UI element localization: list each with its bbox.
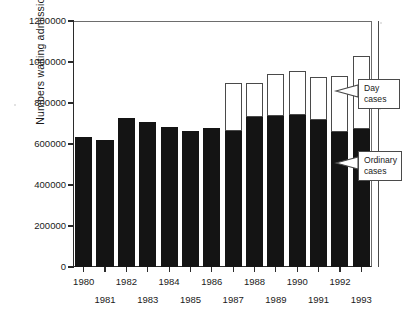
callout-day-line1: Day — [364, 83, 395, 94]
bar-ordinary-cases — [118, 118, 135, 267]
bar-day-cases — [310, 77, 327, 120]
bar-ordinary-cases — [139, 122, 156, 267]
x-tick-mark — [254, 267, 255, 272]
x-tick-label: 1985 — [170, 294, 210, 305]
x-tick-mark — [169, 267, 170, 272]
x-tick-mark — [190, 267, 191, 272]
bar-ordinary-cases — [289, 115, 306, 267]
bar-ordinary-cases — [161, 127, 178, 267]
bar-ordinary-cases — [182, 131, 199, 267]
callout-ordinary-arrow-icon — [336, 156, 360, 170]
x-tick-mark — [211, 267, 212, 272]
x-tick-mark — [361, 267, 362, 272]
y-tick-label: 200000 — [2, 220, 66, 231]
y-tick-label: 400000 — [2, 179, 66, 190]
x-tick-label: 1984 — [149, 276, 189, 287]
callout-ordinary-line1: Ordinary — [364, 155, 397, 166]
frame-top-connector — [378, 21, 379, 79]
callout-day-line2: cases — [364, 94, 395, 105]
x-tick-label: 1991 — [299, 294, 339, 305]
x-tick-label: 1986 — [192, 276, 232, 287]
x-tick-mark — [233, 267, 234, 272]
x-tick-label: 1987 — [213, 294, 253, 305]
x-tick-mark — [126, 267, 127, 272]
bar-ordinary-cases — [353, 129, 370, 267]
bar-ordinary-cases — [267, 116, 284, 267]
y-tick-label: 1200000 — [2, 15, 66, 26]
bar-ordinary-cases — [225, 131, 242, 267]
x-tick-label: 1990 — [277, 276, 317, 287]
x-tick-mark — [147, 267, 148, 272]
x-tick-mark — [104, 267, 105, 272]
x-tick-label: 1982 — [106, 276, 146, 287]
x-tick-label: 1988 — [235, 276, 275, 287]
y-tick-label: 1000000 — [2, 56, 66, 67]
x-tick-mark — [318, 267, 319, 272]
bar-chart: Numbers waiting admission 12000001000000… — [0, 0, 406, 311]
callout-day-cases: Day cases — [358, 79, 400, 109]
y-tick-label: 0 — [2, 261, 66, 272]
x-tick-label: 1981 — [85, 294, 125, 305]
y-tick-label: 600000 — [2, 138, 66, 149]
x-tick-mark — [275, 267, 276, 272]
callout-ordinary-line2: cases — [364, 166, 397, 177]
bar-ordinary-cases — [331, 132, 348, 267]
callout-day-arrow-icon — [336, 84, 360, 98]
bar-ordinary-cases — [246, 117, 263, 267]
bar-ordinary-cases — [310, 120, 327, 267]
bars-container — [73, 21, 372, 267]
bar-ordinary-cases — [203, 128, 220, 267]
bar-day-cases — [225, 83, 242, 132]
callout-day-leader — [378, 109, 379, 152]
callout-ordinary-leader — [378, 181, 379, 267]
x-tick-mark — [297, 267, 298, 272]
x-tick-label: 1989 — [256, 294, 296, 305]
x-tick-label: 1993 — [341, 294, 381, 305]
x-tick-mark — [339, 267, 340, 272]
x-tick-mark — [83, 267, 84, 272]
bar-ordinary-cases — [75, 137, 92, 267]
x-tick-label: 1980 — [64, 276, 104, 287]
bar-day-cases — [246, 83, 263, 118]
y-tick-label: 800000 — [2, 97, 66, 108]
callout-ordinary-cases: Ordinary cases — [358, 151, 402, 181]
bar-ordinary-cases — [96, 140, 113, 267]
x-tick-label: 1992 — [320, 276, 360, 287]
bar-day-cases — [267, 74, 284, 116]
x-tick-label: 1983 — [128, 294, 168, 305]
bar-day-cases — [289, 71, 306, 115]
scan-speck — [380, 22, 382, 24]
